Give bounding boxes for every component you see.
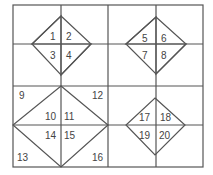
label-9: 9	[19, 90, 25, 101]
label-7: 7	[142, 50, 148, 61]
diamond-top-right	[126, 17, 186, 74]
label-8: 8	[161, 50, 167, 61]
label-18: 18	[160, 112, 172, 123]
label-11: 11	[64, 111, 75, 122]
label-12: 12	[92, 90, 104, 101]
label-20: 20	[159, 130, 171, 141]
label-5: 5	[142, 33, 148, 44]
label-10: 10	[45, 111, 57, 122]
label-4: 4	[66, 50, 72, 61]
label-2: 2	[66, 31, 72, 42]
label-1: 1	[50, 31, 56, 42]
label-13: 13	[17, 152, 29, 163]
label-17: 17	[139, 112, 151, 123]
label-16: 16	[92, 152, 104, 163]
grid-diagram: 1 2 3 4 5 6 7 8 9 10 11 12 13 14 15 16 1…	[0, 0, 213, 175]
label-19: 19	[139, 130, 151, 141]
label-14: 14	[45, 130, 57, 141]
label-3: 3	[50, 50, 56, 61]
label-6: 6	[161, 33, 167, 44]
diamond-top-left	[32, 16, 91, 75]
label-15: 15	[64, 130, 76, 141]
